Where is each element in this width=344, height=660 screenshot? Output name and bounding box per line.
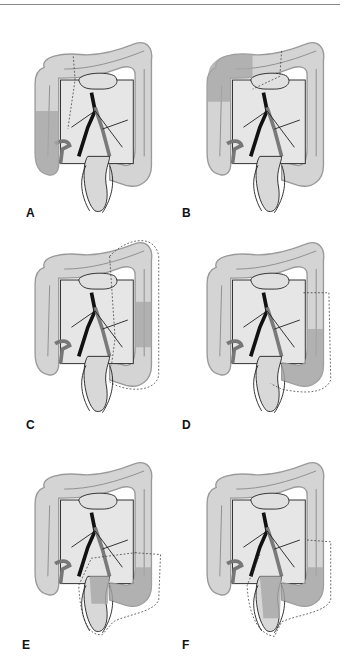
panel-label-c: C xyxy=(26,418,35,432)
colon-diagram-b xyxy=(172,20,344,220)
colon-diagram-d xyxy=(172,220,344,420)
colon-diagram-f xyxy=(172,440,344,640)
panel-label-f: F xyxy=(182,638,189,652)
colon-diagram-e xyxy=(0,440,172,640)
panel-b: B xyxy=(172,20,344,240)
panel-label-b: B xyxy=(182,206,191,220)
page-header-rule xyxy=(0,4,340,5)
colon-diagram-c xyxy=(0,220,172,420)
panel-label-d: D xyxy=(182,418,191,432)
panel-label-a: A xyxy=(26,206,35,220)
panel-e: E xyxy=(0,440,172,660)
panel-f: F xyxy=(172,440,344,660)
panel-a: A xyxy=(0,20,172,240)
panel-label-e: E xyxy=(22,638,30,652)
colon-diagram-a xyxy=(0,20,172,220)
panel-d: D xyxy=(172,220,344,440)
panel-c: C xyxy=(0,220,172,440)
